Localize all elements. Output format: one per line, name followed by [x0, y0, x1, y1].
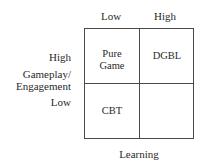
x-axis-level-low: Low [84, 11, 138, 22]
quadrant-pure-game-line2: Game [99, 60, 124, 72]
y-axis-title-line2: Engagement [16, 80, 71, 92]
x-axis-level-high: High [138, 11, 192, 22]
quadrant-dgbl: DGBL [140, 29, 194, 83]
y-axis-title-line1: Gameplay/ [16, 68, 71, 80]
y-axis-level-high: High [49, 52, 71, 63]
quadrant-pure-game-line1: Pure [99, 48, 124, 60]
quadrant-cbt: CBT [85, 84, 139, 138]
quadrant-dgbl-label: DGBL [153, 50, 182, 62]
quadrant-pure-game: Pure Game [85, 29, 139, 83]
x-axis-title: Learning [84, 149, 194, 160]
y-axis-level-low: Low [51, 97, 71, 108]
quadrant-empty [140, 84, 194, 138]
quadrant-cbt-label: CBT [102, 105, 122, 117]
y-axis-title: Gameplay/ Engagement [16, 68, 71, 92]
quadrant-grid: Pure Game DGBL CBT [84, 28, 194, 139]
